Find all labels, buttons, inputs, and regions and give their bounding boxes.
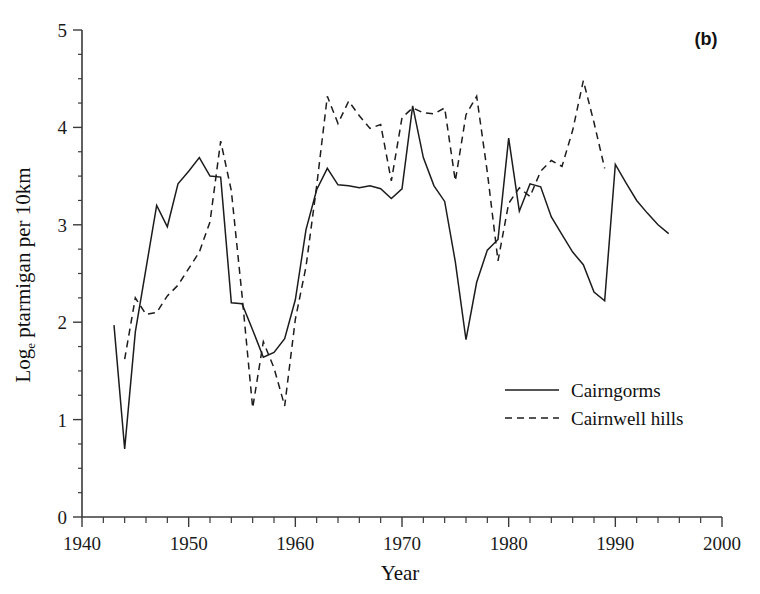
x-axis-title-group: Year [381, 561, 420, 585]
y-tick-label: 4 [58, 117, 68, 138]
y-tick-label: 1 [58, 410, 68, 431]
x-tick-label: 1980 [490, 533, 528, 554]
x-tick-label: 1940 [63, 533, 101, 554]
legend-label-cairngorms: Cairngorms [571, 380, 661, 401]
chart-legend: CairngormsCairnwell hills [505, 380, 683, 429]
x-tick-label: 2000 [703, 533, 741, 554]
panel-label: (b) [695, 29, 718, 49]
ptarmigan-time-series-chart: (b) 012345 1940195019601970198019902000 … [0, 0, 760, 594]
x-tick-label: 1990 [596, 533, 634, 554]
x-tick-label: 1960 [276, 533, 314, 554]
series-line-cairnwell-hills [125, 81, 605, 408]
y-axis-title: Loge ptarmigan per 10km [11, 167, 38, 382]
x-axis: 1940195019601970198019902000 [63, 517, 741, 554]
x-tick-label: 1950 [170, 533, 208, 554]
y-tick-label: 5 [58, 20, 68, 41]
x-tick-marks [82, 517, 722, 527]
x-axis-title: Year [381, 561, 420, 585]
y-tick-labels: 012345 [58, 20, 68, 528]
panel-label-group: (b) [695, 29, 718, 49]
y-axis-title-prefix: Log [11, 348, 35, 382]
y-tick-label: 2 [58, 312, 68, 333]
figure-page: (b) 012345 1940195019601970198019902000 … [0, 0, 760, 594]
legend-label-cairnwell-hills: Cairnwell hills [571, 408, 683, 429]
y-axis-title-suffix: ptarmigan per 10km [11, 167, 35, 343]
y-tick-label: 3 [58, 215, 68, 236]
y-axis-title-group: Loge ptarmigan per 10km [11, 167, 38, 382]
x-tick-label: 1970 [383, 533, 421, 554]
y-axis: 012345 [58, 20, 83, 528]
x-tick-labels: 1940195019601970198019902000 [63, 533, 741, 554]
y-tick-marks [73, 30, 82, 517]
y-tick-label: 0 [58, 507, 68, 528]
